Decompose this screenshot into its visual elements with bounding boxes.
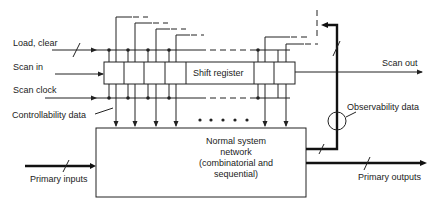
- primary-inputs: Primary inputs: [25, 160, 96, 184]
- controllability-label: Controllability data: [12, 110, 86, 120]
- primary-outputs: Primary outputs: [306, 157, 427, 182]
- load-clear-label: Load, clear: [13, 38, 58, 48]
- network-label-1: Normal system: [206, 136, 266, 146]
- scan-out-label: Scan out: [382, 58, 418, 68]
- network-label-2: network: [220, 147, 252, 157]
- cell-taps-right: [256, 10, 318, 126]
- scan-path-diagram: Load, clear Scan in Scan clock Controlla…: [0, 0, 436, 208]
- network-label-3: (combinatorial and: [199, 158, 273, 168]
- scan-clock-label: Scan clock: [13, 85, 57, 95]
- observability-path: Observability data: [306, 22, 419, 154]
- controllability-pointer: [95, 108, 113, 114]
- ellipsis-dots: [198, 118, 248, 121]
- load-clear-line: [52, 43, 290, 57]
- cell-taps-left: [107, 17, 204, 126]
- shift-register-label: Shift register: [193, 68, 244, 78]
- scan-in-label: Scan in: [13, 62, 43, 72]
- shift-register: Shift register: [104, 62, 295, 84]
- normal-system-network: Normal system network (combinatorial and…: [96, 128, 306, 197]
- primary-outputs-label: Primary outputs: [358, 172, 422, 182]
- primary-inputs-label: Primary inputs: [30, 174, 88, 184]
- network-label-4: sequential): [214, 169, 258, 179]
- observability-label: Observability data: [347, 102, 419, 112]
